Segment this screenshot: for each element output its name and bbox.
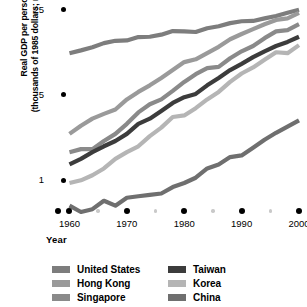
legend-column: United StatesHong KongSingapore [52, 263, 140, 305]
x-tick-label: 1960 [49, 218, 89, 229]
x-tick-label: 1990 [222, 218, 262, 229]
legend-swatch [52, 280, 70, 287]
x-axis-origin-dot [55, 208, 61, 214]
x-tick-dot [124, 208, 130, 214]
series-line-united-states [69, 10, 299, 54]
legend-label: Singapore [77, 292, 125, 303]
legend-swatch [52, 294, 70, 301]
legend-item-china[interactable]: China [168, 291, 226, 304]
x-tick-dot-minor [211, 209, 214, 212]
legend-label: Taiwan [193, 264, 226, 275]
y-axis-ticks: 1525 [14, 0, 44, 215]
x-axis-ticks [0, 206, 307, 218]
legend-item-taiwan[interactable]: Taiwan [168, 263, 226, 276]
x-tick-label: 2000 [279, 218, 307, 229]
x-tick-label: 1980 [164, 218, 204, 229]
x-tick-label: 1970 [107, 218, 147, 229]
x-axis-tick-labels: 19601970198019902000 [0, 218, 307, 232]
legend-swatch [52, 266, 70, 273]
y-tick-label: 1 [18, 175, 44, 185]
x-tick-dot-minor [269, 209, 272, 212]
y-tick-label: 25 [18, 5, 44, 15]
legend-swatch [168, 280, 186, 287]
x-axis-title: Year [46, 234, 67, 245]
legend-item-united-states[interactable]: United States [52, 263, 140, 276]
legend-column: TaiwanKoreaChina [168, 263, 226, 305]
x-tick-dot [296, 208, 302, 214]
x-tick-dot [66, 208, 72, 214]
legend-label: United States [77, 264, 140, 275]
gdp-per-person-chart: Real GDP per person (thousands of 1985 d… [0, 0, 307, 307]
legend-label: Korea [193, 278, 221, 289]
legend-item-korea[interactable]: Korea [168, 277, 226, 290]
legend-item-singapore[interactable]: Singapore [52, 291, 140, 304]
series-line-taiwan [69, 37, 299, 165]
legend-swatch [168, 266, 186, 273]
x-tick-dot [239, 208, 245, 214]
series-lines [58, 0, 299, 212]
x-tick-dot-minor [154, 209, 157, 212]
legend-swatch [168, 294, 186, 301]
legend-label: Hong Kong [77, 278, 130, 289]
legend-label: China [193, 292, 221, 303]
x-tick-dot-minor [96, 209, 99, 212]
legend-item-hong-kong[interactable]: Hong Kong [52, 277, 140, 290]
plot-area [58, 0, 299, 212]
x-tick-dot [181, 208, 187, 214]
y-tick-label: 5 [18, 90, 44, 100]
